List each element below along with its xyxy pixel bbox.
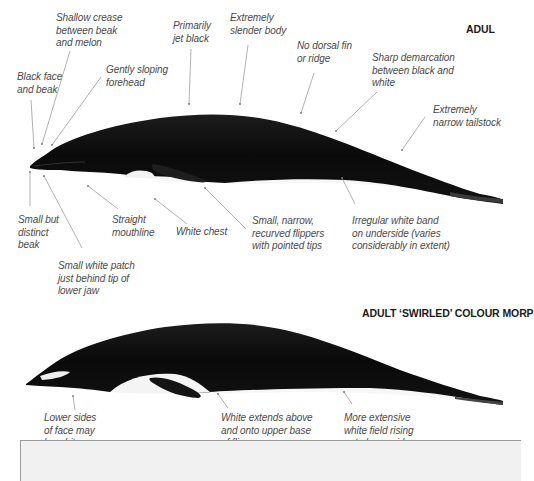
heading-adult: ADUL xyxy=(466,23,495,35)
label-straight-mouthline: Straight mouthline xyxy=(112,214,154,239)
label-sharp-demarcation: Sharp demarcation between black and whit… xyxy=(372,52,455,90)
label-irregular-white-band: Irregular white band on underside (varie… xyxy=(352,215,450,253)
label-no-dorsal-fin: No dorsal fin or ridge xyxy=(297,40,352,65)
label-narrow-tailstock: Extremely narrow tailstock xyxy=(433,104,501,129)
label-narrow-flippers: Small, narrow, recurved flippers with po… xyxy=(252,215,324,253)
info-box xyxy=(20,440,521,481)
swirled-whale xyxy=(26,323,503,405)
label-white-chest: White chest xyxy=(176,226,227,239)
label-small-white-patch: Small white patch just behind tip of low… xyxy=(58,260,135,298)
label-extremely-slender-body: Extremely slender body xyxy=(230,12,286,37)
label-small-distinct-beak: Small but distinct beak xyxy=(18,214,59,252)
label-black-face-beak: Black face and beak xyxy=(17,71,62,96)
label-shallow-crease: Shallow crease between beak and melon xyxy=(56,12,122,50)
label-primarily-jet-black: Primarily jet black xyxy=(173,20,211,45)
heading-swirled-morph: ADULT ‘SWIRLED’ COLOUR MORP xyxy=(362,307,534,319)
label-gently-sloping-forehead: Gently sloping forehead xyxy=(106,64,168,89)
